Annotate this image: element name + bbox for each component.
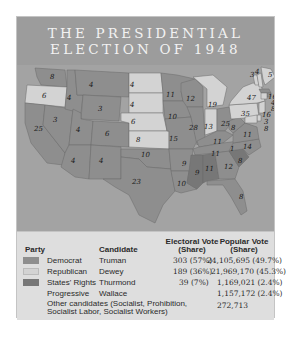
header-popular: Popular Vote (Share): [209, 238, 279, 254]
candidate-name: Dewey: [99, 267, 123, 276]
popular-vote: 21,969,170 (45.3%): [211, 267, 286, 276]
label-ks: 8: [136, 136, 141, 144]
popular-vote: 1,169,021 (2.4%): [217, 278, 282, 287]
figure-title: THE PRESIDENTIAL ELECTION OF 1948: [17, 25, 274, 57]
swatch-states-rights: [23, 279, 39, 286]
label-nd: 4: [129, 81, 134, 89]
popular-vote: 24,105,695 (49.7%): [207, 256, 282, 265]
label-il: 28: [188, 124, 198, 132]
label-az: 4: [70, 157, 75, 165]
label-tx: 23: [131, 178, 141, 186]
state-co: [91, 121, 129, 147]
state-ks: [129, 131, 169, 149]
label-sc: 8: [238, 157, 243, 165]
label-ne: 6: [131, 118, 136, 126]
table-row-republican: Republican Dewey 189 (36%) 21,969,170 (4…: [17, 267, 274, 277]
title-line-2: ELECTION OF 1948: [17, 41, 274, 57]
label-mt: 4: [88, 81, 93, 89]
label-nm: 4: [98, 157, 103, 165]
us-map: 8 6 25 3 4 4 3 4 6 4 4 4 4 6 8 10 23 11 …: [17, 65, 274, 231]
candidate-name: Thurmond: [99, 278, 135, 287]
party-name: Democrat: [47, 256, 82, 265]
label-ct: 8: [271, 105, 274, 113]
header-candidate: Candidate: [99, 246, 138, 254]
title-line-1: THE PRESIDENTIAL: [17, 25, 274, 41]
label-wv: 8: [231, 124, 236, 132]
label-or: 6: [42, 92, 47, 100]
label-va: 11: [243, 131, 252, 139]
label-ky: 11: [213, 138, 222, 146]
label-mo: 15: [169, 135, 178, 143]
label-sd: 4: [129, 101, 134, 109]
table-row-democrat: Democrat Truman 303 (57%) 24,105,695 (49…: [17, 256, 274, 266]
candidate-name: Wallace: [99, 289, 127, 298]
electoral-vote: 189 (36%): [173, 267, 212, 276]
label-ca: 25: [33, 125, 43, 133]
header-popular-line2: (Share): [209, 246, 279, 254]
state-nm: [89, 145, 121, 179]
label-wy: 3: [98, 105, 103, 113]
table-row-progressive: Progressive Wallace 1,157,172 (2.4%): [17, 289, 274, 299]
header-party: Party: [25, 246, 45, 254]
party-name: States' Rights: [47, 278, 96, 287]
other-candidates-label: Other candidates (Socialist, Prohibition…: [47, 300, 197, 316]
label-md: 8: [264, 125, 269, 133]
label-oh: 25: [220, 120, 230, 128]
party-name: Republican: [47, 267, 87, 276]
label-tn: 11: [211, 150, 220, 158]
label-wa: 8: [50, 73, 55, 81]
label-nh: 4: [254, 68, 259, 76]
label-ut: 4: [75, 126, 80, 134]
candidate-name: Truman: [99, 256, 126, 265]
label-in: 13: [204, 123, 213, 131]
other-candidates-popular: 272,713: [217, 301, 248, 310]
label-ar: 9: [182, 160, 187, 168]
label-wi: 12: [186, 95, 195, 103]
label-ms: 9: [195, 169, 200, 177]
label-co: 6: [105, 130, 110, 138]
title-band: THE PRESIDENTIAL ELECTION OF 1948: [17, 17, 274, 65]
label-nc: 14: [243, 143, 252, 151]
label-al: 11: [205, 165, 214, 173]
label-la: 10: [177, 180, 186, 188]
label-tn-split: 1: [230, 145, 234, 153]
label-nv: 3: [53, 116, 58, 124]
state-de: [257, 115, 261, 121]
label-mi: 19: [208, 101, 217, 109]
party-name: Progressive: [47, 289, 89, 298]
label-ok: 10: [141, 151, 150, 159]
swatch-democrat: [23, 257, 39, 264]
election-map-figure: THE PRESIDENTIAL ELECTION OF 1948: [16, 16, 275, 318]
us-states-map: 8 6 25 3 4 4 3 4 6 4 4 4 4 6 8 10 23 11 …: [17, 65, 274, 231]
label-id: 4: [66, 94, 71, 102]
label-mn: 11: [166, 91, 175, 99]
label-me: 5: [268, 71, 273, 79]
state-ct: [261, 93, 267, 99]
popular-vote: 1,157,172 (2.4%): [217, 289, 282, 298]
electoral-vote: 39 (7%): [179, 278, 209, 287]
state-in: [205, 109, 217, 135]
swatch-republican: [23, 268, 39, 275]
other-line-2: Socialist Labor, Socialist Workers): [47, 308, 197, 316]
label-ny: 47: [246, 94, 256, 102]
results-table: Party Candidate Electoral Vote (Share) P…: [17, 231, 274, 320]
state-mt: [75, 70, 129, 97]
label-pa: 35: [241, 110, 250, 118]
label-ia: 10: [168, 113, 177, 121]
label-ga: 12: [224, 163, 233, 171]
label-fl: 8: [239, 193, 244, 201]
table-row-states-rights: States' Rights Thurmond 39 (7%) 1,169,02…: [17, 278, 274, 288]
